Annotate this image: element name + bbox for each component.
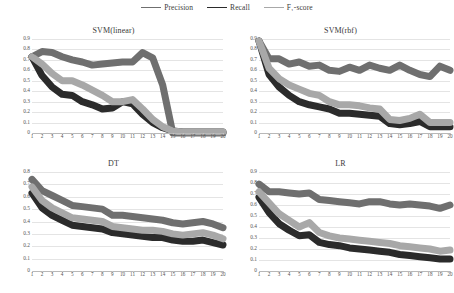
x-tick-label: 2 bbox=[268, 134, 271, 139]
legend-swatch-precision bbox=[141, 7, 161, 8]
y-tick-label: 0.2 bbox=[250, 109, 257, 114]
x-tick-label: 20 bbox=[447, 272, 452, 277]
plot-wrap-svm-rbf: 00.10.20.30.40.50.60.70.80.9 12345678910… bbox=[227, 39, 450, 155]
y-tick-label: 0.5 bbox=[250, 78, 257, 83]
x-tick-label: 5 bbox=[71, 272, 74, 277]
x-tick-label: 11 bbox=[130, 272, 135, 277]
y-tick-label: 0.8 bbox=[23, 47, 30, 52]
y-tick-label: 0.5 bbox=[23, 206, 30, 211]
panel-title-svm-rbf: SVM(rbf) bbox=[227, 26, 454, 35]
x-tick-label: 6 bbox=[81, 272, 84, 277]
x-tick-label: 10 bbox=[347, 134, 352, 139]
y-tick-label: 0.3 bbox=[23, 99, 30, 104]
panel-dt: DT 00.10.20.30.40.50.60.70.8 12345678910… bbox=[0, 155, 227, 293]
x-tick-label: 17 bbox=[417, 134, 422, 139]
x-tick-label: 8 bbox=[101, 272, 104, 277]
panel-title-dt: DT bbox=[0, 159, 227, 168]
plot-area-svm-rbf bbox=[259, 39, 450, 133]
y-tick-label: 0.2 bbox=[23, 244, 30, 249]
panel-title-lr: LR bbox=[227, 159, 454, 168]
series-line-recall bbox=[32, 57, 223, 132]
plot-wrap-dt: 00.10.20.30.40.50.60.70.8 12345678910111… bbox=[0, 172, 223, 293]
x-tick-label: 13 bbox=[377, 134, 382, 139]
y-tick-label: 0.1 bbox=[23, 120, 30, 125]
x-tick-label: 19 bbox=[210, 134, 215, 139]
x-tick-label: 9 bbox=[338, 272, 341, 277]
panel-grid: SVM(linear) 00.10.20.30.40.50.60.70.80.9… bbox=[0, 22, 454, 293]
y-tick-label: 0.9 bbox=[250, 169, 257, 174]
legend-item-precision: Precision bbox=[141, 4, 193, 12]
plot-area-svm-linear bbox=[32, 39, 223, 133]
y-axis-labels-svm-linear: 00.10.20.30.40.50.60.70.80.9 bbox=[14, 39, 30, 133]
y-tick-label: 0.8 bbox=[23, 169, 30, 174]
x-tick-label: 8 bbox=[328, 134, 331, 139]
x-tick-label: 3 bbox=[51, 134, 54, 139]
x-tick-label: 10 bbox=[347, 272, 352, 277]
x-tick-label: 2 bbox=[41, 134, 44, 139]
x-tick-label: 6 bbox=[308, 272, 311, 277]
plot-wrap-svm-linear: 00.10.20.30.40.50.60.70.80.9 12345678910… bbox=[0, 39, 223, 155]
x-tick-label: 6 bbox=[81, 134, 84, 139]
y-tick-label: 0.6 bbox=[250, 202, 257, 207]
panel-svm-rbf: SVM(rbf) 00.10.20.30.40.50.60.70.80.9 12… bbox=[227, 22, 454, 155]
x-tick-label: 12 bbox=[140, 134, 145, 139]
chart-legend: Precision Recall F₁-score bbox=[0, 4, 454, 12]
x-tick-label: 15 bbox=[170, 134, 175, 139]
legend-swatch-recall bbox=[207, 7, 227, 8]
x-tick-label: 20 bbox=[220, 134, 225, 139]
x-tick-label: 7 bbox=[91, 272, 94, 277]
x-tick-label: 1 bbox=[258, 272, 261, 277]
y-tick-label: 0 bbox=[27, 130, 30, 135]
y-tick-label: 0.7 bbox=[250, 57, 257, 62]
y-tick-label: 0.1 bbox=[250, 120, 257, 125]
panel-svm-linear: SVM(linear) 00.10.20.30.40.50.60.70.80.9… bbox=[0, 22, 227, 155]
x-tick-label: 18 bbox=[200, 134, 205, 139]
x-tick-label: 18 bbox=[427, 272, 432, 277]
y-tick-label: 0.8 bbox=[250, 47, 257, 52]
x-tick-label: 20 bbox=[220, 272, 225, 277]
panel-lr: LR 00.10.20.30.40.50.60.70.80.9 12345678… bbox=[227, 155, 454, 293]
legend-label-recall: Recall bbox=[230, 4, 250, 12]
x-tick-label: 15 bbox=[397, 272, 402, 277]
x-tick-label: 5 bbox=[71, 134, 74, 139]
x-tick-label: 19 bbox=[210, 272, 215, 277]
x-tick-label: 12 bbox=[367, 134, 372, 139]
x-axis-labels-lr: 1234567891011121314151617181920 bbox=[259, 272, 450, 283]
x-tick-label: 12 bbox=[140, 272, 145, 277]
x-tick-label: 14 bbox=[387, 272, 392, 277]
y-tick-label: 0.6 bbox=[23, 68, 30, 73]
y-tick-label: 0 bbox=[254, 268, 257, 273]
x-tick-label: 11 bbox=[357, 134, 362, 139]
y-tick-label: 0.6 bbox=[250, 68, 257, 73]
x-tick-label: 1 bbox=[31, 134, 34, 139]
x-tick-label: 4 bbox=[288, 134, 291, 139]
y-tick-label: 0.3 bbox=[250, 99, 257, 104]
x-tick-label: 5 bbox=[298, 272, 301, 277]
x-tick-label: 12 bbox=[367, 272, 372, 277]
x-tick-label: 10 bbox=[120, 272, 125, 277]
chart-lines-svm-linear bbox=[32, 39, 223, 133]
x-tick-label: 14 bbox=[387, 134, 392, 139]
y-tick-label: 0.5 bbox=[23, 78, 30, 83]
x-tick-label: 5 bbox=[298, 134, 301, 139]
y-tick-label: 0.4 bbox=[250, 224, 257, 229]
x-tick-label: 13 bbox=[150, 272, 155, 277]
x-tick-label: 3 bbox=[51, 272, 54, 277]
x-tick-label: 19 bbox=[437, 134, 442, 139]
x-tick-label: 19 bbox=[437, 272, 442, 277]
x-tick-label: 7 bbox=[318, 134, 321, 139]
x-tick-label: 16 bbox=[180, 134, 185, 139]
legend-label-f1score: F₁-score bbox=[287, 4, 313, 12]
x-tick-label: 9 bbox=[111, 134, 114, 139]
x-tick-label: 11 bbox=[357, 272, 362, 277]
x-tick-label: 15 bbox=[397, 134, 402, 139]
x-tick-label: 11 bbox=[130, 134, 135, 139]
x-tick-label: 2 bbox=[41, 272, 44, 277]
x-tick-label: 8 bbox=[328, 272, 331, 277]
x-tick-label: 16 bbox=[180, 272, 185, 277]
y-tick-label: 0.9 bbox=[23, 36, 30, 41]
y-tick-label: 0.1 bbox=[23, 256, 30, 261]
series-line-precision bbox=[259, 184, 450, 208]
x-tick-label: 17 bbox=[190, 272, 195, 277]
x-tick-label: 3 bbox=[278, 272, 281, 277]
